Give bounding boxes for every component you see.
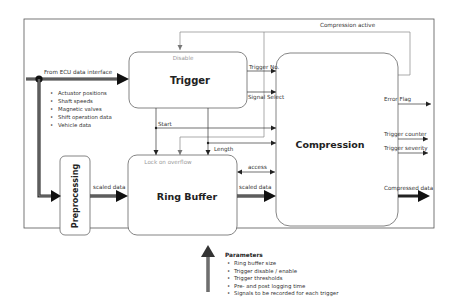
svg-text:•: • <box>227 275 230 281</box>
lock-on-overflow-label: Lock on overflow <box>144 159 192 165</box>
trigger-title: Trigger <box>170 75 210 86</box>
length-label: Length <box>214 146 234 153</box>
ring-buffer-title: Ring Buffer <box>157 191 218 202</box>
ecu-input-arrowhead <box>117 73 129 85</box>
compression-active-label: Compression active <box>320 22 376 29</box>
input-signal-list: • Actuator positions • Shaft speeds • Ma… <box>50 90 112 128</box>
signal-select-label: Signal Select <box>248 94 285 101</box>
input-item: Vehicle data <box>58 122 91 128</box>
compressed-data-label: Compressed data <box>384 185 433 192</box>
scaled-data-rb-label: scaled data <box>239 184 271 190</box>
error-flag-label: Error Flag <box>384 96 412 103</box>
parameter-item: Trigger thresholds <box>233 275 283 282</box>
access-label: access <box>248 164 267 170</box>
parameter-item: Trigger disable / enable <box>233 268 298 275</box>
trigger-severity-label: Trigger severity <box>383 145 428 152</box>
trigger-no-label: Trigger No. <box>248 64 280 71</box>
ecu-input-label: From ECU data interface <box>44 69 113 75</box>
svg-text:•: • <box>227 268 230 274</box>
preprocessing-input-line <box>39 79 53 196</box>
svg-text:•: • <box>227 260 230 266</box>
svg-text:•: • <box>50 122 53 128</box>
start-label: Start <box>158 121 172 127</box>
input-item: Shift operation data <box>58 114 112 121</box>
input-item: Actuator positions <box>58 90 107 97</box>
input-item: Magnetic valves <box>58 106 102 113</box>
svg-text:•: • <box>50 98 53 104</box>
svg-text:•: • <box>227 283 230 289</box>
svg-text:•: • <box>227 290 230 296</box>
parameter-item: Pre- and post logging time <box>234 283 306 290</box>
trigger-counter-label: Trigger counter <box>383 131 427 138</box>
system-diagram: Compression active Disable Trigger Compr… <box>0 0 455 307</box>
compression-title: Compression <box>295 139 364 150</box>
parameters-list: • Ring buffer size • Trigger disable / e… <box>227 260 339 297</box>
svg-text:•: • <box>50 114 53 120</box>
trigger-disable-label: Disable <box>173 55 194 61</box>
parameter-item: Ring buffer size <box>234 260 277 267</box>
scaled-data-pre-label: scaled data <box>93 184 125 190</box>
preprocessing-title: Preprocessing <box>71 164 80 229</box>
svg-text:•: • <box>50 90 53 96</box>
parameter-item: Signals to be recorded for each trigger <box>234 290 339 297</box>
input-item: Shaft speeds <box>58 98 93 105</box>
parameters-title: Parameters <box>225 252 263 258</box>
svg-text:•: • <box>50 106 53 112</box>
